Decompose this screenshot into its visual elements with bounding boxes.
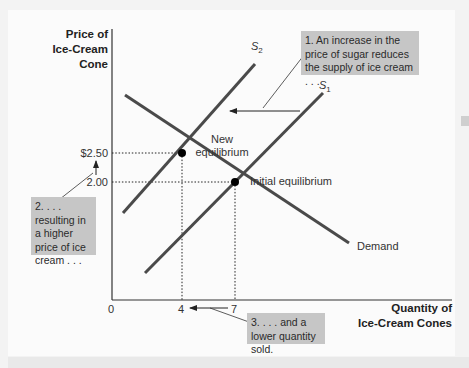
s1-label: S1 — [319, 79, 331, 96]
callout-supply-decrease: 1. An increase in the price of sugar red… — [301, 31, 419, 75]
y-axis-title: Price of Ice-Cream Cone — [40, 27, 108, 72]
y-tick-low: 2.00 — [70, 176, 108, 188]
new-equilibrium-label: New equilibrium — [191, 133, 253, 159]
x-axis-title: Quantity of Ice-Cream Cones — [330, 301, 452, 331]
callout-lower-quantity: 3. . . . and a lower quantity sold. — [247, 313, 325, 344]
x-tick-origin: 0 — [108, 303, 114, 315]
x-axis-title-line: Ice-Cream Cones — [330, 316, 452, 331]
s1-label-sub: 1 — [326, 85, 330, 94]
callout-higher-price: 2. . . . resulting in a higher price of … — [31, 197, 96, 255]
y-axis-title-line: Cone — [40, 57, 108, 72]
y-axis-title-line: Price of — [40, 27, 108, 42]
new-equilibrium-label-line: New — [191, 133, 253, 146]
x-tick-new: 4 — [178, 303, 184, 315]
y-axis-title-line: Ice-Cream — [40, 42, 108, 57]
new-equilibrium-point — [178, 149, 186, 157]
initial-equilibrium-point — [231, 178, 239, 186]
initial-equilibrium-label: Initial equilibrium — [250, 175, 332, 188]
x-tick-initial: 7 — [231, 303, 237, 315]
demand-label: Demand — [357, 240, 399, 253]
s2-label: S2 — [251, 40, 263, 57]
new-equilibrium-label-line: equilibrium — [191, 146, 253, 159]
s2-label-sub: 2 — [258, 46, 262, 55]
y-tick-high: $2.50 — [70, 147, 108, 159]
callout-3-leader — [210, 308, 249, 322]
callout-1-leader — [263, 55, 304, 108]
x-axis-title-line: Quantity of — [330, 301, 452, 316]
demand-curve — [125, 95, 349, 243]
